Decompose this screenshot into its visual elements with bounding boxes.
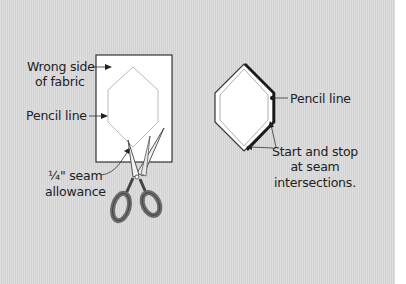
label-wrong-side-line1: Wrong side (27, 59, 95, 74)
label-seam-line1: ¼" seam (48, 168, 102, 183)
label-pencil-line-right: Pencil line (290, 91, 351, 106)
label-start-stop-line1: Start and stop (270, 144, 360, 159)
illustration-canvas: Wrong side of fabric Pencil line ¼" seam… (0, 0, 395, 284)
label-wrong-side-line2: of fabric (35, 74, 85, 89)
label-pencil-line-left: Pencil line (26, 108, 87, 123)
label-start-stop-line2: at seam (270, 159, 360, 174)
diagram-artwork (0, 0, 395, 284)
label-seam-line2: allowance (45, 184, 106, 199)
label-start-stop-line3: intersections. (270, 175, 360, 190)
page-margin (395, 0, 406, 284)
hexagon-fabric-piece (215, 64, 273, 151)
